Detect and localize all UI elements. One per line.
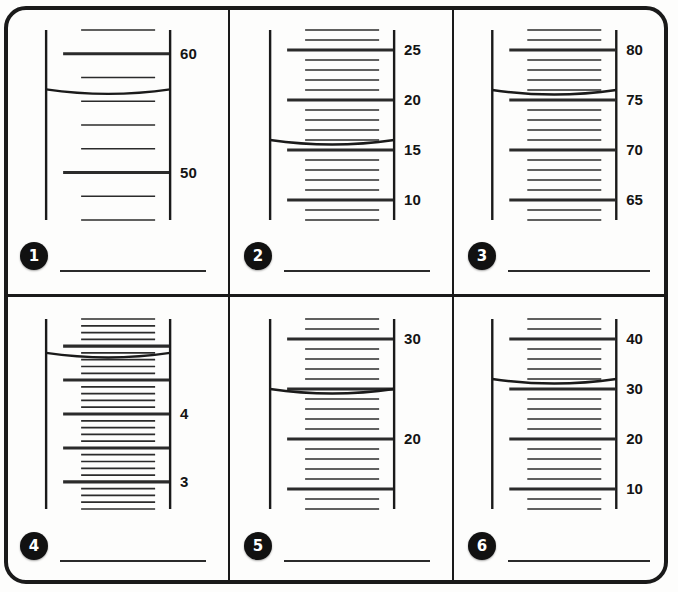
scale-label: 40 — [626, 330, 643, 347]
answer-row: 1 — [20, 242, 214, 276]
scale-label: 20 — [404, 91, 421, 108]
graduated-cylinder: 40302010 — [454, 297, 672, 547]
graduated-cylinder: 25201510 — [230, 8, 452, 258]
panel-number-badge: 6 — [468, 532, 496, 560]
scale-label: 30 — [626, 380, 643, 397]
answer-row: 3 — [468, 242, 658, 276]
graduated-cylinder: 80757065 — [454, 8, 672, 258]
panel-number-badge: 2 — [244, 242, 272, 270]
graduated-cylinder: 43 — [6, 297, 228, 547]
answer-row: 5 — [244, 532, 438, 566]
scale-label: 50 — [180, 164, 197, 181]
scale-label: 20 — [626, 430, 643, 447]
worksheet-page: 6050125201510280757065343430205403020106 — [0, 0, 678, 592]
answer-input-line[interactable] — [60, 560, 206, 562]
panel-6: 403020106 — [454, 297, 672, 584]
answer-input-line[interactable] — [284, 270, 430, 272]
panel-3: 807570653 — [454, 8, 672, 294]
panel-number-badge: 4 — [20, 532, 48, 560]
scale-label: 10 — [626, 480, 643, 497]
scale-label: 70 — [626, 141, 643, 158]
scale-label: 4 — [180, 405, 189, 422]
answer-row: 6 — [468, 532, 658, 566]
meniscus-curve — [46, 89, 170, 94]
answer-row: 2 — [244, 242, 438, 276]
scale-label: 25 — [404, 41, 421, 58]
scale-label: 80 — [626, 41, 643, 58]
scale-label: 60 — [180, 45, 197, 62]
answer-input-line[interactable] — [284, 560, 430, 562]
panel-number-badge: 3 — [468, 242, 496, 270]
scale-label: 15 — [404, 141, 421, 158]
panel-number-badge: 5 — [244, 532, 272, 560]
graduated-cylinder: 3020 — [230, 297, 452, 547]
panel-5: 30205 — [230, 297, 452, 584]
panel-number-badge: 1 — [20, 242, 48, 270]
panel-grid: 6050125201510280757065343430205403020106 — [0, 0, 678, 592]
scale-label: 20 — [404, 430, 421, 447]
answer-input-line[interactable] — [508, 270, 650, 272]
scale-label: 65 — [626, 191, 643, 208]
scale-label: 3 — [180, 473, 188, 490]
scale-label: 75 — [626, 91, 643, 108]
panel-1: 60501 — [6, 8, 228, 294]
answer-row: 4 — [20, 532, 214, 566]
graduated-cylinder: 6050 — [6, 8, 228, 258]
panel-2: 252015102 — [230, 8, 452, 294]
answer-input-line[interactable] — [60, 270, 206, 272]
scale-label: 10 — [404, 191, 421, 208]
scale-label: 30 — [404, 330, 421, 347]
answer-input-line[interactable] — [508, 560, 650, 562]
panel-4: 434 — [6, 297, 228, 584]
